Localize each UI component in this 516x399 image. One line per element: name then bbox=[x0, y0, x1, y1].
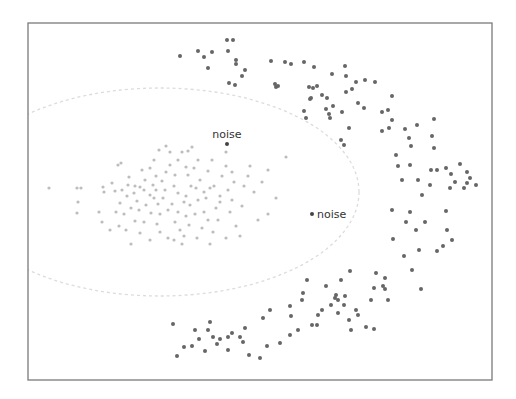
data-point bbox=[354, 80, 358, 84]
noise-label: noise bbox=[212, 128, 241, 141]
data-point bbox=[187, 223, 190, 226]
data-point bbox=[144, 203, 147, 206]
data-point bbox=[390, 208, 394, 212]
data-point bbox=[266, 168, 269, 171]
data-point bbox=[101, 185, 104, 188]
data-point bbox=[278, 341, 282, 345]
data-point bbox=[238, 234, 241, 237]
data-point bbox=[171, 322, 175, 326]
data-point bbox=[308, 97, 312, 101]
data-point bbox=[315, 84, 319, 88]
data-point bbox=[161, 196, 164, 199]
data-point bbox=[444, 209, 448, 213]
data-point bbox=[224, 150, 227, 153]
data-point bbox=[184, 194, 187, 197]
data-point bbox=[168, 150, 171, 153]
data-point bbox=[188, 203, 191, 206]
data-point bbox=[423, 220, 427, 224]
data-point bbox=[224, 236, 227, 239]
data-point bbox=[218, 337, 222, 341]
data-point bbox=[296, 328, 300, 332]
data-point bbox=[252, 190, 255, 193]
data-point bbox=[75, 211, 78, 214]
data-point bbox=[260, 180, 263, 183]
data-point bbox=[407, 136, 411, 140]
data-point bbox=[158, 230, 161, 233]
data-point bbox=[449, 172, 453, 176]
data-point bbox=[300, 298, 304, 302]
data-point bbox=[387, 126, 391, 130]
data-point bbox=[429, 168, 433, 172]
data-point bbox=[164, 144, 167, 147]
data-point bbox=[226, 348, 230, 352]
data-point bbox=[216, 218, 219, 221]
data-point bbox=[178, 54, 182, 58]
data-point bbox=[119, 161, 122, 164]
data-point bbox=[304, 116, 308, 120]
data-point bbox=[240, 204, 243, 207]
data-point bbox=[238, 335, 242, 339]
data-point bbox=[430, 134, 434, 138]
data-point bbox=[202, 210, 205, 213]
data-point bbox=[240, 74, 244, 78]
data-point bbox=[228, 210, 231, 213]
data-point bbox=[75, 186, 78, 189]
data-point bbox=[154, 188, 157, 191]
data-point bbox=[129, 242, 132, 245]
data-point bbox=[342, 303, 346, 307]
data-point bbox=[343, 294, 347, 298]
data-point bbox=[215, 342, 219, 346]
data-point bbox=[230, 331, 234, 335]
data-point bbox=[125, 194, 128, 197]
data-point bbox=[343, 64, 347, 68]
data-point bbox=[218, 194, 221, 197]
data-point bbox=[200, 226, 203, 229]
data-point bbox=[269, 59, 273, 63]
data-point bbox=[184, 165, 187, 168]
data-point bbox=[197, 337, 201, 341]
data-point bbox=[76, 200, 79, 203]
data-point bbox=[152, 196, 155, 199]
data-point bbox=[450, 238, 454, 242]
data-point bbox=[415, 123, 419, 127]
data-point bbox=[203, 349, 207, 353]
data-point bbox=[344, 90, 348, 94]
data-point bbox=[156, 202, 159, 205]
data-point bbox=[127, 175, 130, 178]
data-point bbox=[374, 271, 378, 275]
data-point bbox=[149, 211, 152, 214]
data-point bbox=[122, 212, 125, 215]
plot-background bbox=[28, 23, 492, 380]
data-point bbox=[129, 206, 132, 209]
data-point bbox=[307, 85, 311, 89]
data-point bbox=[224, 164, 227, 167]
data-point bbox=[218, 200, 221, 203]
data-point bbox=[315, 323, 319, 327]
data-point bbox=[180, 242, 183, 245]
data-point bbox=[97, 210, 100, 213]
data-point bbox=[176, 210, 179, 213]
data-point bbox=[274, 196, 277, 199]
data-point bbox=[305, 278, 309, 282]
data-point bbox=[102, 190, 105, 193]
data-point bbox=[390, 118, 394, 122]
data-point bbox=[391, 237, 395, 241]
data-point bbox=[211, 230, 214, 233]
data-point bbox=[310, 212, 314, 216]
data-point bbox=[408, 210, 412, 214]
data-point bbox=[132, 191, 135, 194]
data-point bbox=[428, 183, 432, 187]
data-point bbox=[330, 72, 334, 76]
data-point bbox=[225, 38, 229, 42]
data-point bbox=[231, 38, 235, 42]
data-point bbox=[331, 104, 335, 108]
data-point bbox=[324, 107, 328, 111]
data-point bbox=[220, 174, 223, 177]
data-point bbox=[206, 169, 209, 172]
data-point bbox=[311, 86, 315, 90]
data-point bbox=[265, 344, 269, 348]
data-point bbox=[268, 308, 272, 312]
data-point bbox=[154, 174, 157, 177]
data-point bbox=[210, 50, 214, 54]
data-point bbox=[380, 129, 384, 133]
